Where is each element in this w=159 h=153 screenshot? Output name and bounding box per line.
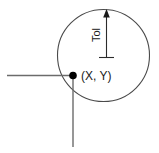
diagram-canvas: Tol (X, Y) xyxy=(0,0,159,153)
tolerance-zone-circle xyxy=(58,10,150,102)
point-coordinate-label: (X, Y) xyxy=(81,69,111,83)
tolerance-label: Tol xyxy=(90,28,102,42)
tolerance-diagram: Tol (X, Y) xyxy=(0,0,159,153)
true-position-point xyxy=(69,72,77,80)
